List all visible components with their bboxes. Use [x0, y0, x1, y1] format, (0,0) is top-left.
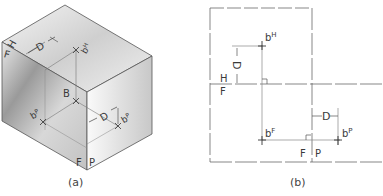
label-b-bF: bF	[265, 127, 275, 139]
label-b-F: F	[220, 86, 226, 97]
figure-a-isometric-box: H F D bH B bP D bP F P	[2, 5, 152, 170]
caption-b: (b)	[290, 176, 306, 189]
label-b-D-vertical: D	[230, 61, 243, 69]
label-b-H: H	[220, 73, 228, 84]
figure-b-orthographic	[210, 8, 383, 162]
point-bP-marker-b	[334, 136, 342, 145]
label-a-B: B	[63, 88, 70, 99]
label-a-F-bottom: F	[76, 157, 82, 168]
label-b-D-horizontal: D	[322, 110, 330, 123]
label-a-P-bottom: P	[89, 157, 95, 168]
caption-a: (a)	[68, 176, 83, 189]
label-b-F-bottom: F	[300, 148, 306, 159]
label-b-bP: bP	[342, 127, 353, 139]
label-b-P-bottom: P	[315, 148, 321, 159]
label-b-bH: bH	[265, 31, 277, 43]
technical-drawing: H F D bH B bP D bP F P	[0, 0, 383, 196]
